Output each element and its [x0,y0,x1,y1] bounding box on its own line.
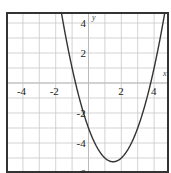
y-tick-label: -4 [77,137,87,149]
parabola-chart: -4-22442-2-4-6 x y [0,0,171,173]
y-tick-label: -2 [77,107,86,119]
grid [7,13,168,172]
x-axis-label: x [162,69,167,78]
x-tick-label: -2 [50,85,59,97]
y-tick-label: -6 [77,167,87,173]
y-tick-label: 4 [81,17,87,29]
x-tick-label: -4 [17,85,27,97]
tick-labels: -4-22442-2-4-6 [17,17,157,173]
y-axis-label: y [91,13,96,22]
x-tick-label: 4 [151,85,157,97]
plot-border [7,13,168,172]
y-tick-label: 2 [81,47,87,59]
x-tick-label: 2 [118,85,124,97]
